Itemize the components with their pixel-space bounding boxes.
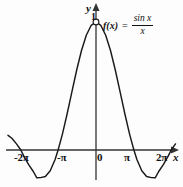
x-tick-label-2pi: 2π	[156, 152, 167, 163]
formula-numerator: sin x	[132, 14, 154, 25]
x-tick-label-zero: 0	[97, 152, 102, 163]
x-axis-label: x	[173, 152, 178, 163]
formula-denominator: x	[132, 25, 154, 37]
x-axis	[6, 146, 179, 153]
x-tick-label-neg-2pi: -2π	[14, 152, 29, 163]
formula-fraction: sin x x	[132, 14, 154, 37]
y-axis-label: y	[86, 3, 91, 14]
formula-equals-sign: =	[122, 20, 128, 31]
formula-function-name: f(x)	[103, 20, 118, 31]
sinc-curve	[8, 22, 176, 178]
function-formula: f(x) = sin x x	[103, 14, 153, 37]
sinc-function-figure: -2π -π 0 π 2π x y 1 f(x) = sin x x	[0, 0, 183, 187]
x-tick-label-pi: π	[124, 152, 130, 163]
y-tick-label-one: 1	[91, 12, 96, 22]
x-tick-label-neg-pi: -π	[57, 152, 66, 163]
